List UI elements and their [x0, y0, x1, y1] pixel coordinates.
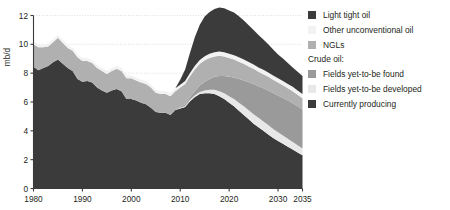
y-tick-label: 12: [19, 11, 29, 21]
y-axis-title: mb/d: [2, 47, 12, 66]
legend-swatch-currently-producing: [308, 100, 316, 108]
y-tick-label: 10: [19, 39, 29, 49]
legend-swatch-light-tight-oil: [308, 11, 316, 19]
legend-label-light-tight-oil: Light tight oil: [323, 9, 370, 22]
legend-item-fields-yet-to-be-developed: Fields yet-to-be developed: [308, 83, 448, 96]
legend-label-fields-yet-to-be-developed: Fields yet-to-be developed: [323, 83, 422, 96]
y-tick-label: 0: [23, 184, 28, 194]
legend-item-fields-yet-to-be-found: Fields yet-to-be found: [308, 68, 448, 81]
x-tick-label: 2035: [293, 194, 312, 204]
legend-label-other-unconventional-oil: Other unconventional oil: [323, 24, 413, 37]
y-tick-label: 2: [23, 155, 28, 165]
y-tick-label: 6: [23, 97, 28, 107]
legend-label-fields-yet-to-be-found: Fields yet-to-be found: [323, 68, 404, 81]
y-tick-label: 8: [23, 68, 28, 78]
legend-swatch-other-unconventional-oil: [308, 26, 316, 34]
y-tick-label: 4: [23, 126, 28, 136]
x-tick-label: 1980: [24, 194, 43, 204]
legend-group-title-crude-oil: Crude oil:: [308, 53, 448, 66]
x-tick-label: 2000: [122, 194, 141, 204]
legend-swatch-fields-yet-to-be-developed: [308, 85, 316, 93]
legend-item-ngls: NGLs: [308, 39, 448, 52]
stacked-area-chart: 0246810121980199020002010202020302035mb/…: [0, 0, 320, 210]
legend-item-light-tight-oil: Light tight oil: [308, 9, 448, 22]
chart-figure: 0246810121980199020002010202020302035mb/…: [0, 0, 450, 210]
x-tick-label: 2010: [171, 194, 190, 204]
legend-item-currently-producing: Currently producing: [308, 98, 448, 111]
x-tick-label: 2020: [220, 194, 239, 204]
x-tick-label: 2030: [269, 194, 288, 204]
legend-label-currently-producing: Currently producing: [323, 98, 396, 111]
x-tick-label: 1990: [73, 194, 92, 204]
legend-swatch-fields-yet-to-be-found: [308, 70, 316, 78]
legend-label-ngls: NGLs: [323, 39, 344, 52]
legend-swatch-ngls: [308, 41, 316, 49]
legend-item-other-unconventional-oil: Other unconventional oil: [308, 24, 448, 37]
plot-area: 0246810121980199020002010202020302035mb/…: [0, 0, 320, 210]
chart-legend: Light tight oil Other unconventional oil…: [308, 9, 448, 112]
